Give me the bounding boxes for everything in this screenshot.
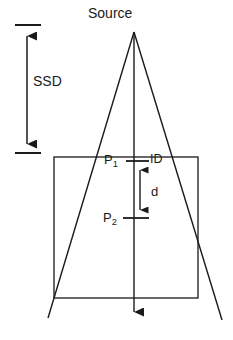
ssd-label: SSD [33,74,62,88]
p1-label-subscript: 1 [113,159,118,169]
p1-label: P1 [104,153,118,169]
id-label: ID [150,153,163,166]
beam-edge-right-line [134,32,222,320]
figure-canvas: Source SSD ID d P1 P2 [0,0,233,340]
p2-label: P2 [103,211,117,227]
beam-geometry-diagram [0,0,233,340]
d-label: d [151,185,158,198]
p1-label-base: P [104,152,113,167]
source-label: Source [88,6,132,20]
p2-label-base: P [103,210,112,225]
p2-label-subscript: 2 [112,217,117,227]
